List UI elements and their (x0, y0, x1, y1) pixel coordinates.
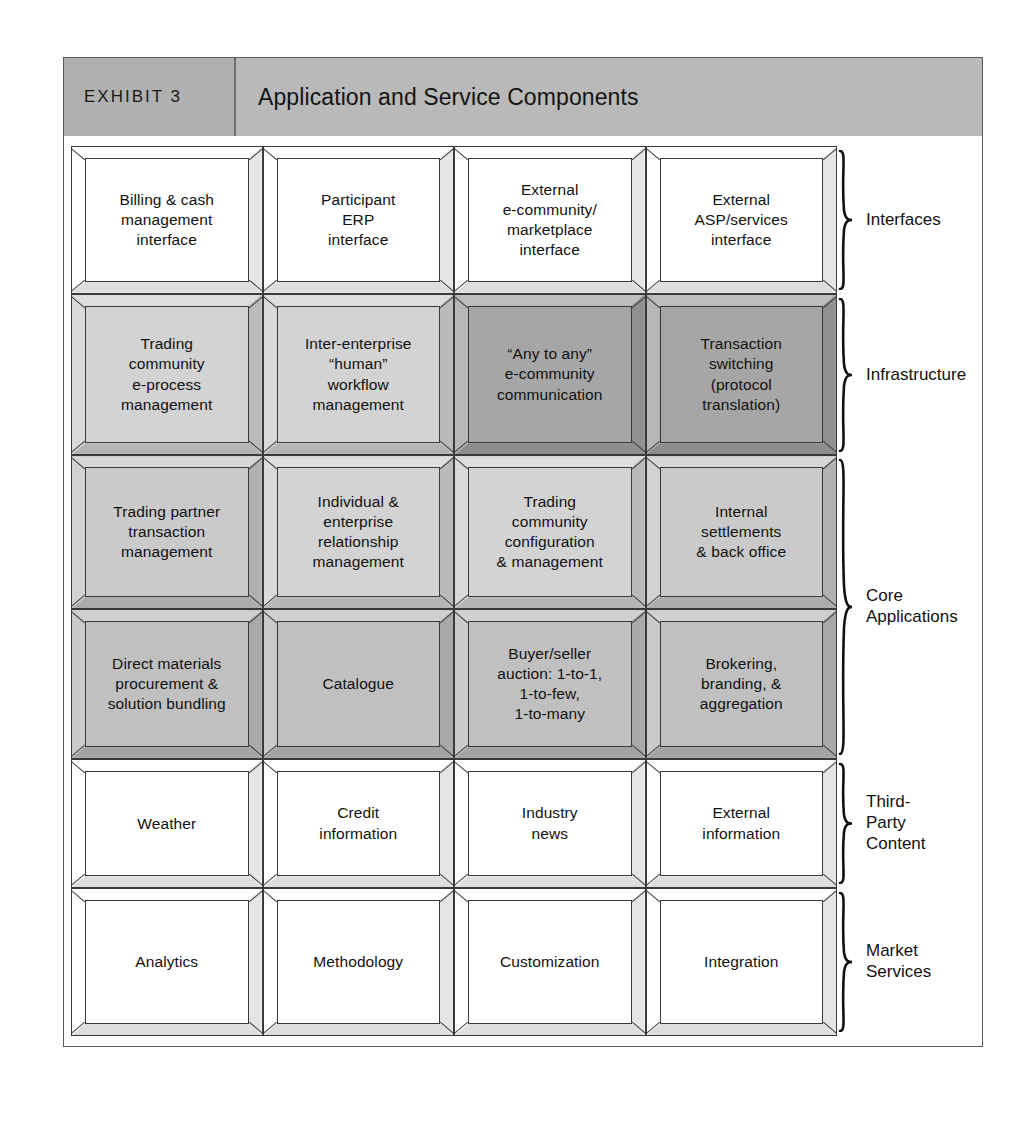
bevel-right-wedge (632, 610, 645, 758)
bevel-left-wedge (647, 610, 660, 758)
cell-label: Catalogue (322, 674, 394, 694)
bevel-top-wedge (647, 889, 837, 900)
bevel-right-wedge (823, 295, 836, 455)
bevel-bottom-wedge (455, 597, 645, 608)
matrix-cell-market-services-2[interactable]: Methodology (263, 888, 455, 1036)
bevel-left-wedge (455, 456, 468, 608)
group-infrastructure: Infrastructure (837, 298, 977, 452)
bevel-top-wedge (264, 295, 454, 306)
matrix-cell-interfaces-4[interactable]: External ASP/services interface (646, 146, 838, 294)
bevel-right-wedge (632, 295, 645, 455)
bevel-right-wedge (632, 147, 645, 293)
matrix-cell-core-applications-upper-3[interactable]: Trading community configuration & manage… (454, 455, 646, 609)
matrix-cell-third-party-content-2[interactable]: Credit information (263, 759, 455, 888)
bevel-right-wedge (823, 760, 836, 887)
bevel-bottom-wedge (264, 1024, 454, 1035)
bevel-bottom-wedge (72, 282, 262, 293)
matrix-cell-core-applications-lower-2[interactable]: Catalogue (263, 609, 455, 759)
matrix-cell-core-applications-upper-1[interactable]: Trading partner transaction management (71, 455, 263, 609)
bevel-bottom-wedge (647, 1024, 837, 1035)
matrix-cell-interfaces-1[interactable]: Billing & cash management interface (71, 146, 263, 294)
cell-face: Billing & cash management interface (85, 158, 249, 282)
cell-face: Brokering, branding, & aggregation (660, 621, 824, 747)
matrix-cell-core-applications-upper-4[interactable]: Internal settlements & back office (646, 455, 838, 609)
bevel-right-wedge (823, 456, 836, 608)
group-label: Third- Party Content (854, 792, 926, 854)
matrix-cell-third-party-content-4[interactable]: External information (646, 759, 838, 888)
bevel-top-wedge (264, 889, 454, 900)
cell-face: “Any to any” e-community communication (468, 306, 632, 444)
matrix-cell-market-services-4[interactable]: Integration (646, 888, 838, 1036)
bevel-bottom-wedge (647, 443, 837, 454)
cell-label: Credit information (319, 803, 397, 843)
cell-label: Direct materials procurement & solution … (108, 654, 226, 714)
bevel-top-wedge (647, 456, 837, 467)
bevel-bottom-wedge (264, 747, 454, 758)
bevel-top-wedge (72, 760, 262, 771)
matrix-cell-market-services-3[interactable]: Customization (454, 888, 646, 1036)
bevel-top-wedge (455, 760, 645, 771)
matrix-cell-interfaces-2[interactable]: Participant ERP interface (263, 146, 455, 294)
bevel-top-wedge (647, 610, 837, 621)
bevel-bottom-wedge (647, 597, 837, 608)
bevel-right-wedge (823, 610, 836, 758)
group-brace-icon (837, 892, 854, 1032)
cell-face: External ASP/services interface (660, 158, 824, 282)
cell-label: Individual & enterprise relationship man… (313, 492, 404, 573)
cell-label: Participant ERP interface (321, 190, 395, 250)
bevel-right-wedge (249, 889, 262, 1035)
bevel-left-wedge (455, 147, 468, 293)
group-label: Core Applications (854, 586, 958, 627)
cell-label: Internal settlements & back office (696, 502, 786, 562)
cell-face: Transaction switching (protocol translat… (660, 306, 824, 444)
cell-label: External information (702, 803, 780, 843)
bevel-top-wedge (264, 760, 454, 771)
matrix-cell-infrastructure-3[interactable]: “Any to any” e-community communication (454, 294, 646, 456)
matrix-cell-third-party-content-1[interactable]: Weather (71, 759, 263, 888)
group-brace-icon (837, 150, 854, 290)
matrix-cell-infrastructure-2[interactable]: Inter-enterprise “human” workflow manage… (263, 294, 455, 456)
matrix-cell-third-party-content-3[interactable]: Industry news (454, 759, 646, 888)
bevel-top-wedge (455, 610, 645, 621)
matrix-cell-market-services-1[interactable]: Analytics (71, 888, 263, 1036)
matrix-cell-interfaces-3[interactable]: External e-community/ marketplace interf… (454, 146, 646, 294)
component-matrix: Billing & cash management interfaceParti… (71, 146, 837, 1036)
cell-face: External e-community/ marketplace interf… (468, 158, 632, 282)
bevel-bottom-wedge (264, 876, 454, 887)
bevel-bottom-wedge (264, 282, 454, 293)
bevel-right-wedge (440, 889, 453, 1035)
exhibit-title: Application and Service Components (258, 84, 639, 111)
group-market-services: Market Services (837, 892, 977, 1032)
matrix-cell-infrastructure-1[interactable]: Trading community e-process management (71, 294, 263, 456)
bevel-left-wedge (264, 610, 277, 758)
bevel-left-wedge (72, 760, 85, 887)
cell-label: External ASP/services interface (695, 190, 788, 250)
bevel-left-wedge (647, 889, 660, 1035)
group-brace-column: InterfacesInfrastructureCore Application… (837, 146, 977, 1036)
cell-face: Direct materials procurement & solution … (85, 621, 249, 747)
bevel-left-wedge (72, 610, 85, 758)
matrix-cell-core-applications-lower-4[interactable]: Brokering, branding, & aggregation (646, 609, 838, 759)
group-label: Market Services (854, 941, 931, 982)
exhibit-header: EXHIBIT 3 Application and Service Compon… (64, 58, 982, 136)
bevel-left-wedge (72, 889, 85, 1035)
bevel-bottom-wedge (455, 876, 645, 887)
bevel-top-wedge (455, 889, 645, 900)
bevel-right-wedge (440, 760, 453, 887)
cell-label: Trading partner transaction management (113, 502, 220, 562)
matrix-cell-infrastructure-4[interactable]: Transaction switching (protocol translat… (646, 294, 838, 456)
bevel-top-wedge (647, 147, 837, 158)
bevel-top-wedge (72, 147, 262, 158)
bevel-right-wedge (249, 610, 262, 758)
bevel-top-wedge (647, 760, 837, 771)
matrix-cell-core-applications-lower-1[interactable]: Direct materials procurement & solution … (71, 609, 263, 759)
cell-face: Analytics (85, 900, 249, 1024)
matrix-cell-core-applications-lower-3[interactable]: Buyer/seller auction: 1-to-1, 1-to-few, … (454, 609, 646, 759)
bevel-bottom-wedge (264, 597, 454, 608)
bevel-left-wedge (647, 147, 660, 293)
cell-face: Methodology (277, 900, 441, 1024)
cell-face: Buyer/seller auction: 1-to-1, 1-to-few, … (468, 621, 632, 747)
matrix-cell-core-applications-upper-2[interactable]: Individual & enterprise relationship man… (263, 455, 455, 609)
bevel-left-wedge (264, 889, 277, 1035)
cell-face: Trading community e-process management (85, 306, 249, 444)
